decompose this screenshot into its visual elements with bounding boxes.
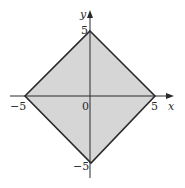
origin-label: 0 — [82, 100, 89, 113]
y-tick-pos-label: 5 — [81, 24, 88, 37]
x-axis-arrow-icon — [166, 93, 174, 99]
y-axis-label: y — [79, 8, 87, 21]
diamond-region-diagram: y x 0 5 −5 5 −5 — [0, 0, 185, 188]
y-tick-neg-label: −5 — [73, 160, 89, 173]
x-tick-neg-label: −5 — [10, 100, 26, 113]
y-axis-arrow-icon — [87, 10, 93, 18]
x-axis-label: x — [168, 100, 175, 113]
x-tick-pos-label: 5 — [151, 100, 158, 113]
